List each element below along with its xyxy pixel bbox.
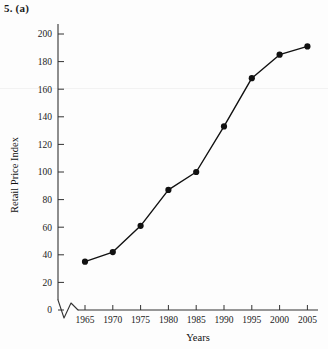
y-tick-label: 180 bbox=[38, 57, 53, 67]
y-tick-label: 100 bbox=[38, 167, 53, 177]
data-point bbox=[277, 52, 283, 58]
data-point bbox=[249, 75, 255, 81]
line-chart: 020406080100120140160180200 196519701975… bbox=[0, 0, 328, 349]
x-axis-ticks: 196519701975198019851990199520002005 bbox=[76, 305, 318, 325]
data-point bbox=[138, 223, 144, 229]
data-point bbox=[110, 249, 116, 255]
chart-axes bbox=[58, 24, 318, 318]
figure-page: 5. (a) 020406080100120140160180200 19651… bbox=[0, 0, 328, 349]
y-tick-label: 200 bbox=[38, 29, 53, 39]
y-tick-label: 20 bbox=[43, 278, 53, 288]
x-tick-label: 2000 bbox=[270, 315, 289, 325]
data-point bbox=[82, 259, 88, 265]
x-tick-label: 1980 bbox=[159, 315, 178, 325]
y-axis-ticks: 020406080100120140160180200 bbox=[38, 29, 64, 315]
y-tick-label: 80 bbox=[43, 195, 53, 205]
data-point bbox=[193, 169, 199, 175]
y-axis-title: Retail Price Index bbox=[9, 136, 20, 213]
data-point bbox=[165, 187, 171, 193]
y-tick-label: 140 bbox=[38, 112, 53, 122]
x-tick-label: 1990 bbox=[215, 315, 234, 325]
x-tick-label: 1985 bbox=[187, 315, 206, 325]
x-tick-label: 1970 bbox=[103, 315, 122, 325]
y-tick-label: 120 bbox=[38, 140, 53, 150]
data-point bbox=[304, 43, 310, 49]
data-line bbox=[85, 46, 307, 261]
x-axis-title: Years bbox=[186, 332, 209, 343]
x-tick-label: 2005 bbox=[298, 315, 317, 325]
y-tick-label: 0 bbox=[47, 305, 52, 315]
x-tick-label: 1965 bbox=[76, 315, 95, 325]
data-point bbox=[221, 123, 227, 129]
x-tick-label: 1995 bbox=[242, 315, 261, 325]
y-tick-label: 40 bbox=[43, 250, 53, 260]
x-tick-label: 1975 bbox=[131, 315, 150, 325]
data-point-markers bbox=[82, 43, 311, 264]
y-tick-label: 160 bbox=[38, 85, 53, 95]
y-tick-label: 60 bbox=[43, 223, 53, 233]
